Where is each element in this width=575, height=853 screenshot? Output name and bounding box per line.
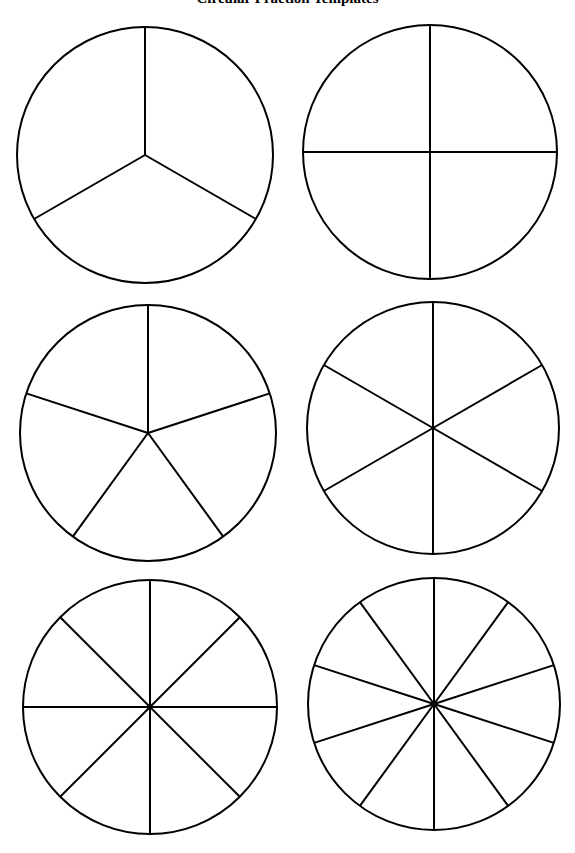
fraction-circle-sixths (307, 302, 559, 554)
fraction-circle-thirds (17, 27, 273, 283)
fraction-circle-eighths (23, 580, 277, 834)
fraction-circle-fourths (303, 25, 557, 279)
fraction-circles-canvas (0, 0, 575, 853)
fraction-circle-fifths (20, 305, 276, 561)
fraction-circle-tenths (308, 578, 560, 830)
